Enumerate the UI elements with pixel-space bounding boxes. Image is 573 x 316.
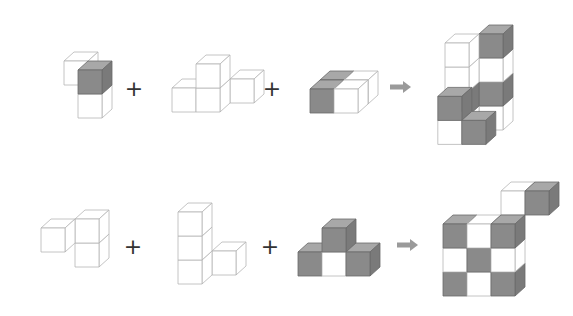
arrow-head bbox=[403, 81, 411, 93]
cube-front-face bbox=[491, 248, 515, 272]
cube-front-face bbox=[298, 252, 322, 276]
white-cube bbox=[212, 242, 246, 275]
cube-front-face bbox=[346, 252, 370, 276]
cube-front-face bbox=[479, 58, 503, 82]
row-2: + + bbox=[41, 182, 559, 296]
arrow-right-icon bbox=[390, 81, 411, 93]
cube-front-face bbox=[525, 191, 549, 215]
arrow-shaft bbox=[390, 85, 404, 90]
white-cube bbox=[445, 34, 479, 67]
cube-front-face bbox=[491, 272, 515, 296]
cube-front-face bbox=[75, 219, 99, 243]
cube-front-face bbox=[178, 236, 202, 260]
cube-front-face bbox=[467, 224, 491, 248]
shaded-cube bbox=[78, 61, 112, 94]
cube-front-face bbox=[322, 228, 346, 252]
plus-sign: + bbox=[263, 76, 281, 101]
cube-front-face bbox=[178, 212, 202, 236]
arrow-right-icon bbox=[397, 239, 418, 251]
shaded-cube bbox=[491, 215, 525, 248]
shaded-cube bbox=[322, 219, 356, 252]
cube-front-face bbox=[443, 224, 467, 248]
shaded-cube bbox=[346, 243, 380, 276]
puzzle-diagram: + + + + bbox=[0, 0, 573, 316]
cube-front-face bbox=[78, 94, 102, 118]
cube-front-face bbox=[172, 88, 196, 112]
shaded-cube bbox=[438, 87, 472, 120]
result-1 bbox=[438, 25, 513, 144]
cube-front-face bbox=[178, 260, 202, 284]
cube-front-face bbox=[322, 252, 346, 276]
cube-front-face bbox=[230, 79, 254, 103]
shaded-cube bbox=[462, 111, 496, 144]
cube-front-face bbox=[443, 248, 467, 272]
cube-front-face bbox=[310, 89, 334, 113]
piece-5 bbox=[178, 203, 246, 284]
cube-front-face bbox=[467, 272, 491, 296]
piece-4 bbox=[41, 210, 109, 267]
cube-front-face bbox=[41, 228, 65, 252]
cube-front-face bbox=[462, 120, 486, 144]
arrow-shaft bbox=[397, 243, 411, 248]
cube-front-face bbox=[479, 34, 503, 58]
piece-6 bbox=[298, 219, 380, 276]
shaded-cube bbox=[479, 25, 513, 58]
cube-front-face bbox=[78, 70, 102, 94]
cube-front-face bbox=[196, 88, 220, 112]
cube-front-face bbox=[491, 224, 515, 248]
cube-front-face bbox=[479, 82, 503, 106]
plus-sign: + bbox=[125, 76, 143, 101]
shaded-cube bbox=[525, 182, 559, 215]
cube-front-face bbox=[467, 248, 491, 272]
arrow-head bbox=[410, 239, 418, 251]
cube-front-face bbox=[196, 64, 220, 88]
white-cube bbox=[178, 203, 212, 236]
cube-front-face bbox=[443, 272, 467, 296]
cube-front-face bbox=[438, 120, 462, 144]
piece-1 bbox=[64, 52, 112, 118]
white-cube bbox=[75, 210, 109, 243]
piece-3 bbox=[310, 71, 378, 113]
piece-2 bbox=[172, 55, 264, 112]
white-cube bbox=[230, 70, 264, 103]
cube-front-face bbox=[501, 191, 525, 215]
cube-front-face bbox=[438, 96, 462, 120]
cube-front-face bbox=[212, 251, 236, 275]
result-2 bbox=[443, 182, 559, 296]
white-cube bbox=[41, 219, 75, 252]
cube-front-face bbox=[445, 43, 469, 67]
cube-front-face bbox=[75, 243, 99, 267]
white-cube bbox=[334, 80, 368, 113]
row-1: + + bbox=[64, 25, 513, 144]
white-cube bbox=[196, 55, 230, 88]
cube-front-face bbox=[334, 89, 358, 113]
plus-sign: + bbox=[261, 234, 279, 259]
plus-sign: + bbox=[124, 234, 142, 259]
